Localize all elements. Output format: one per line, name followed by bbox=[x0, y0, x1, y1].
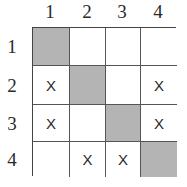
row-label-1: 1 bbox=[4, 37, 20, 56]
cell-4-1 bbox=[33, 142, 70, 177]
cell-1-4 bbox=[141, 28, 177, 66]
cell-3-2 bbox=[70, 105, 106, 142]
row-label-4: 4 bbox=[4, 150, 20, 169]
cell-1-1 bbox=[33, 28, 70, 66]
cell-3-1: X bbox=[33, 105, 70, 142]
matrix-grid: X X X X X X bbox=[32, 27, 176, 176]
column-label-4: 4 bbox=[140, 2, 176, 21]
column-label-1: 1 bbox=[32, 2, 68, 21]
cell-2-1: X bbox=[33, 66, 70, 105]
cell-4-2: X bbox=[70, 142, 106, 177]
cell-1-3 bbox=[106, 28, 141, 66]
cell-1-2 bbox=[70, 28, 106, 66]
cell-3-4: X bbox=[141, 105, 177, 142]
cell-4-3: X bbox=[106, 142, 141, 177]
column-label-3: 3 bbox=[104, 2, 140, 21]
cell-2-3 bbox=[106, 66, 141, 105]
cell-3-3 bbox=[106, 105, 141, 142]
row-label-3: 3 bbox=[4, 114, 20, 133]
row-label-2: 2 bbox=[4, 76, 20, 95]
cell-4-4 bbox=[141, 142, 177, 177]
column-label-2: 2 bbox=[69, 2, 105, 21]
cell-2-2 bbox=[70, 66, 106, 105]
cell-2-4: X bbox=[141, 66, 177, 105]
